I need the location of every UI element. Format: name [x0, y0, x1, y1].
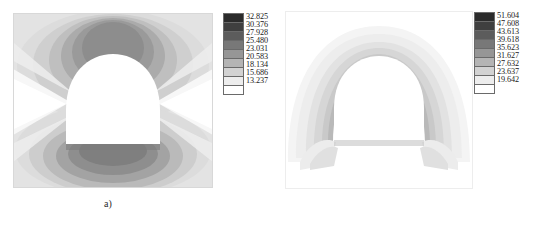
- legend-b-swatch-4: [475, 49, 494, 58]
- legend-a-swatch-3: [224, 41, 243, 50]
- legend-b: 51.604 47.608 43.613 39.618 35.623 31.62…: [474, 12, 519, 94]
- legend-b-swatch-5: [475, 58, 494, 67]
- legend-a-swatch-6: [224, 68, 243, 77]
- legend-a-label-8: 13.237: [246, 77, 268, 85]
- legend-a-swatch-4: [224, 50, 243, 59]
- contour-plot-b-canvas: [286, 12, 472, 188]
- legend-b-label-8: 19.642: [497, 76, 519, 84]
- panel-b: 51.604 47.608 43.613 39.618 35.623 31.62…: [278, 0, 556, 226]
- legend-b-labels: 51.604 47.608 43.613 39.618 35.623 31.62…: [497, 12, 519, 84]
- contour-plot-a-canvas: [14, 14, 212, 187]
- caption-a: a): [104, 198, 112, 209]
- legend-b-swatch-7: [475, 76, 494, 85]
- panel-a: 32.825 30.376 27.928 25.480 23.031 20.58…: [0, 0, 278, 226]
- figure-container: 32.825 30.376 27.928 25.480 23.031 20.58…: [0, 0, 556, 226]
- legend-a: 32.825 30.376 27.928 25.480 23.031 20.58…: [223, 13, 268, 95]
- legend-a-labels: 32.825 30.376 27.928 25.480 23.031 20.58…: [246, 13, 268, 85]
- legend-b-swatch-8: [475, 85, 494, 93]
- legend-a-swatch-1: [224, 23, 243, 32]
- legend-a-swatch-0: [224, 14, 243, 23]
- legend-b-swatch-2: [475, 31, 494, 40]
- legend-a-swatches: [223, 13, 244, 95]
- legend-a-swatch-8: [224, 86, 243, 94]
- contour-plot-a: [13, 13, 213, 188]
- legend-b-swatches: [474, 12, 495, 94]
- legend-b-swatch-6: [475, 67, 494, 76]
- legend-b-swatch-0: [475, 13, 494, 22]
- legend-a-swatch-5: [224, 59, 243, 68]
- legend-a-swatch-7: [224, 77, 243, 86]
- legend-b-swatch-3: [475, 40, 494, 49]
- legend-b-swatch-1: [475, 22, 494, 31]
- contour-plot-b: [285, 11, 473, 189]
- legend-a-swatch-2: [224, 32, 243, 41]
